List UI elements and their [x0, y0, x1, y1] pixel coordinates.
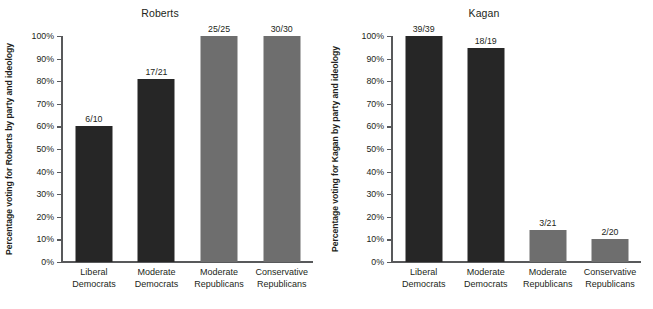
- bar-group-kagan: 39/39LiberalDemocrats18/19ModerateDemocr…: [393, 36, 641, 262]
- bar-slot: 2/20ConservativeRepublicans: [579, 36, 641, 262]
- x-axis-category-line: Moderate: [194, 267, 244, 279]
- x-axis-category-label: LiberalDemocrats: [72, 267, 116, 290]
- plot-area-roberts: 0%10%20%30%40%50%60%70%80%90%100% 6/10Li…: [61, 36, 313, 262]
- y-tick-label-kagan-70: 70%: [366, 99, 384, 109]
- y-tick-roberts-70: [57, 104, 61, 105]
- bar-value-label: 30/30: [271, 24, 293, 34]
- y-tick-kagan-100: [387, 36, 391, 37]
- y-tick-kagan-40: [387, 172, 391, 173]
- figure-two-panel-bar-charts: Roberts Percentage voting for Roberts by…: [0, 0, 653, 309]
- x-axis-category-line: Moderate: [523, 267, 573, 279]
- x-axis-category-line: Democrats: [72, 279, 116, 291]
- x-axis-category-line: Republicans: [584, 279, 637, 291]
- x-axis-category-line: Conservative: [584, 267, 637, 279]
- bar-kagan-2[interactable]: 3/21: [529, 230, 566, 262]
- bar-roberts-2[interactable]: 25/25: [201, 36, 238, 262]
- bar-slot: 6/10LiberalDemocrats: [63, 36, 126, 262]
- y-tick-label-kagan-90: 90%: [366, 54, 384, 64]
- y-tick-roberts-60: [57, 126, 61, 127]
- y-tick-label-kagan-100: 100%: [362, 31, 385, 41]
- y-tick-kagan-50: [387, 149, 391, 150]
- x-axis-category-line: Republicans: [255, 279, 308, 291]
- x-axis-category-line: Democrats: [402, 279, 446, 291]
- x-axis-category-line: Republicans: [194, 279, 244, 291]
- x-axis-category-line: Conservative: [255, 267, 308, 279]
- y-tick-roberts-90: [57, 59, 61, 60]
- y-axis-title-kagan: Percentage voting for Kagan by party and…: [328, 36, 342, 262]
- y-tick-roberts-0: [57, 262, 61, 263]
- bar-slot: 3/21ModerateRepublicans: [517, 36, 579, 262]
- bar-value-label: 17/21: [145, 67, 167, 77]
- chart-panel-roberts: Roberts Percentage voting for Roberts by…: [0, 0, 326, 309]
- plot-area-kagan: 0%10%20%30%40%50%60%70%80%90%100% 39/39L…: [391, 36, 641, 262]
- y-tick-kagan-0: [387, 262, 391, 263]
- y-tick-roberts-50: [57, 149, 61, 150]
- y-tick-label-roberts-0: 0%: [41, 257, 54, 267]
- x-axis-category-line: Republicans: [523, 279, 573, 291]
- y-tick-label-roberts-80: 80%: [36, 76, 54, 86]
- y-tick-kagan-20: [387, 217, 391, 218]
- x-axis-category-label: ModerateDemocrats: [464, 267, 508, 290]
- bar-roberts-1[interactable]: 17/21: [138, 79, 175, 262]
- y-tick-kagan-80: [387, 81, 391, 82]
- bar-kagan-3[interactable]: 2/20: [591, 239, 628, 262]
- y-tick-label-roberts-20: 20%: [36, 212, 54, 222]
- y-tick-label-roberts-70: 70%: [36, 99, 54, 109]
- y-tick-roberts-20: [57, 217, 61, 218]
- bar-group-roberts: 6/10LiberalDemocrats17/21ModerateDemocra…: [63, 36, 313, 262]
- y-tick-kagan-60: [387, 126, 391, 127]
- bar-value-label: 6/10: [85, 114, 102, 124]
- bar-slot: 18/19ModerateDemocrats: [455, 36, 517, 262]
- y-tick-label-roberts-60: 60%: [36, 121, 54, 131]
- bar-roberts-3[interactable]: 30/30: [263, 36, 300, 262]
- bar-value-label: 3/21: [539, 218, 556, 228]
- y-tick-label-kagan-60: 60%: [366, 121, 384, 131]
- bar-slot: 39/39LiberalDemocrats: [393, 36, 455, 262]
- x-axis-category-label: ModerateRepublicans: [194, 267, 244, 290]
- y-tick-label-kagan-80: 80%: [366, 76, 384, 86]
- x-axis-category-line: Democrats: [135, 279, 179, 291]
- bar-value-label: 18/19: [475, 36, 497, 46]
- y-tick-kagan-90: [387, 59, 391, 60]
- y-tick-roberts-100: [57, 36, 61, 37]
- y-tick-label-kagan-20: 20%: [366, 212, 384, 222]
- y-axis-title-text-kagan: Percentage voting for Kagan by party and…: [330, 46, 340, 252]
- bar-value-label: 39/39: [413, 24, 435, 34]
- chart-title-roberts: Roberts: [0, 7, 323, 19]
- y-tick-roberts-30: [57, 194, 61, 195]
- y-axis-title-roberts: Percentage voting for Roberts by party a…: [2, 36, 16, 262]
- y-tick-label-roberts-90: 90%: [36, 54, 54, 64]
- x-axis-category-label: ModerateDemocrats: [135, 267, 179, 290]
- y-tick-roberts-40: [57, 172, 61, 173]
- bar-slot: 17/21ModerateDemocrats: [125, 36, 188, 262]
- x-axis-category-line: Liberal: [402, 267, 446, 279]
- x-axis-category-label: ModerateRepublicans: [523, 267, 573, 290]
- y-tick-label-kagan-40: 40%: [366, 167, 384, 177]
- x-axis-category-label: ConservativeRepublicans: [584, 267, 637, 290]
- chart-title-kagan: Kagan: [321, 7, 647, 19]
- x-axis-category-line: Moderate: [135, 267, 179, 279]
- y-tick-label-roberts-10: 10%: [36, 234, 54, 244]
- bar-slot: 25/25ModerateRepublicans: [188, 36, 251, 262]
- bar-value-label: 25/25: [208, 24, 230, 34]
- x-axis-category-line: Moderate: [464, 267, 508, 279]
- x-axis-category-label: ConservativeRepublicans: [255, 267, 308, 290]
- bar-roberts-0[interactable]: 6/10: [75, 126, 112, 262]
- y-tick-label-roberts-50: 50%: [36, 144, 54, 154]
- y-tick-kagan-10: [387, 239, 391, 240]
- x-axis-category-line: Liberal: [72, 267, 116, 279]
- bar-kagan-0[interactable]: 39/39: [405, 36, 442, 262]
- y-tick-label-roberts-30: 30%: [36, 189, 54, 199]
- y-tick-label-kagan-50: 50%: [366, 144, 384, 154]
- bar-value-label: 2/20: [601, 227, 618, 237]
- x-axis-category-line: Democrats: [464, 279, 508, 291]
- y-axis-title-text-roberts: Percentage voting for Roberts by party a…: [4, 43, 14, 255]
- y-tick-kagan-30: [387, 194, 391, 195]
- y-tick-roberts-10: [57, 239, 61, 240]
- y-tick-label-kagan-30: 30%: [366, 189, 384, 199]
- y-tick-label-kagan-0: 0%: [371, 257, 384, 267]
- bar-kagan-1[interactable]: 18/19: [467, 48, 504, 262]
- y-tick-label-roberts-40: 40%: [36, 167, 54, 177]
- y-tick-label-roberts-100: 100%: [32, 31, 55, 41]
- x-axis-category-label: LiberalDemocrats: [402, 267, 446, 290]
